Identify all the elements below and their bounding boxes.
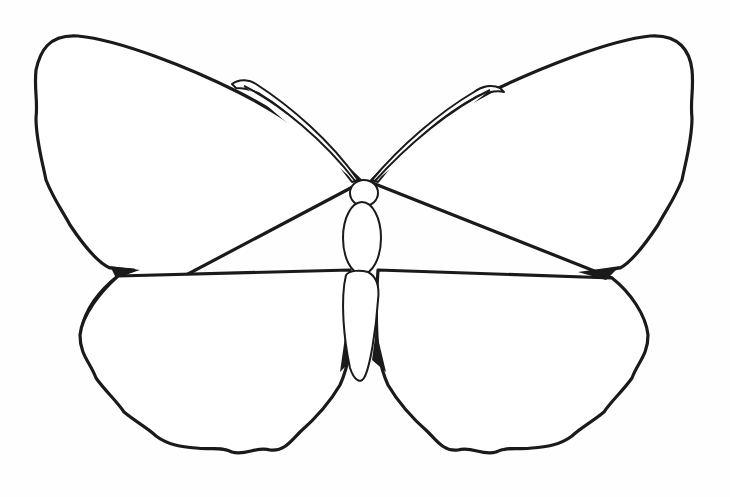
butterfly-thorax bbox=[343, 202, 381, 274]
right-hindwing bbox=[377, 270, 649, 453]
butterfly-drawing bbox=[0, 0, 730, 497]
butterfly-svg bbox=[0, 0, 730, 497]
left-hindwing bbox=[80, 270, 352, 453]
right-forewing bbox=[370, 36, 693, 278]
butterfly-abdomen bbox=[343, 271, 378, 381]
